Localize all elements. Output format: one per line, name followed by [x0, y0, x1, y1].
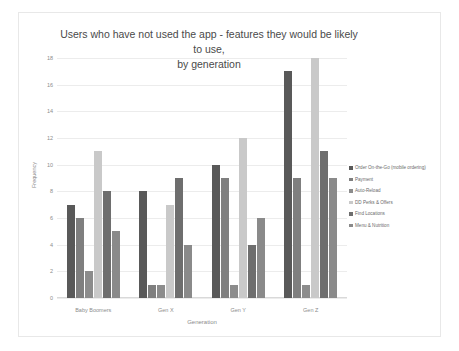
- x-axis-tick: Baby Boomers: [57, 307, 130, 313]
- bar[interactable]: [148, 285, 156, 298]
- y-axis-tick: 4: [50, 242, 53, 248]
- bar[interactable]: [239, 138, 247, 298]
- legend-label: Find Locations: [355, 211, 385, 217]
- y-axis-tick: 18: [47, 55, 53, 61]
- bar[interactable]: [166, 205, 174, 298]
- legend-swatch-icon: [349, 224, 353, 228]
- bar[interactable]: [329, 178, 337, 298]
- plot-wrapper: Frequency 181614121086420 Baby BoomersGe…: [19, 13, 442, 338]
- bar[interactable]: [103, 191, 111, 298]
- legend-swatch-icon: [349, 189, 353, 193]
- legend-item[interactable]: Order On-the-Go (mobile ordering): [349, 165, 441, 171]
- legend-item[interactable]: DD Perks & Offers: [349, 200, 441, 206]
- y-axis-tick: 0: [50, 295, 53, 301]
- bar[interactable]: [184, 245, 192, 298]
- bar[interactable]: [76, 218, 84, 298]
- x-axis-tick: Gen Z: [275, 307, 348, 313]
- gridline: 0: [57, 298, 347, 299]
- bar[interactable]: [311, 58, 319, 298]
- bars: [202, 58, 275, 298]
- y-axis-label: Frequency: [31, 162, 37, 188]
- legend-label: DD Perks & Offers: [355, 200, 393, 206]
- y-axis-tick: 6: [50, 215, 53, 221]
- y-axis-tick: 2: [50, 268, 53, 274]
- bar[interactable]: [139, 191, 147, 298]
- bar[interactable]: [293, 178, 301, 298]
- bar[interactable]: [67, 205, 75, 298]
- bar[interactable]: [212, 165, 220, 298]
- legend-swatch-icon: [349, 166, 353, 170]
- bar-group: Gen Z: [275, 58, 348, 298]
- y-axis-tick: 10: [47, 162, 53, 168]
- bar[interactable]: [302, 285, 310, 298]
- y-axis-tick: 8: [50, 188, 53, 194]
- x-axis-label: Generation: [57, 319, 347, 325]
- bar[interactable]: [157, 285, 165, 298]
- legend-swatch-icon: [349, 212, 353, 216]
- chart-legend: Order On-the-Go (mobile ordering)Payment…: [349, 165, 441, 234]
- bar[interactable]: [221, 178, 229, 298]
- bar-groups: Baby BoomersGen XGen YGen Z: [57, 58, 347, 298]
- legend-item[interactable]: Payment: [349, 177, 441, 183]
- legend-item[interactable]: Auto-Reload: [349, 188, 441, 194]
- bars: [130, 58, 203, 298]
- bar[interactable]: [248, 245, 256, 298]
- bars: [275, 58, 348, 298]
- x-axis-tick: Gen X: [130, 307, 203, 313]
- bar-group: Gen X: [130, 58, 203, 298]
- legend-label: Payment: [355, 177, 373, 183]
- legend-label: Menu & Nutrition: [355, 223, 389, 229]
- bar[interactable]: [257, 218, 265, 298]
- bar[interactable]: [284, 71, 292, 298]
- bar[interactable]: [230, 285, 238, 298]
- bar[interactable]: [85, 271, 93, 298]
- legend-item[interactable]: Menu & Nutrition: [349, 223, 441, 229]
- bar[interactable]: [175, 178, 183, 298]
- plot-area: 181614121086420 Baby BoomersGen XGen YGe…: [57, 58, 347, 298]
- bar-group: Gen Y: [202, 58, 275, 298]
- legend-label: Auto-Reload: [355, 188, 381, 194]
- bar[interactable]: [320, 151, 328, 298]
- bar-group: Baby Boomers: [57, 58, 130, 298]
- bars: [57, 58, 130, 298]
- chart-container: Users who have not used the app - featur…: [18, 12, 441, 337]
- legend-label: Order On-the-Go (mobile ordering): [355, 165, 426, 171]
- y-axis-tick: 16: [47, 82, 53, 88]
- y-axis-tick: 14: [47, 108, 53, 114]
- legend-swatch-icon: [349, 178, 353, 182]
- y-axis-tick: 12: [47, 135, 53, 141]
- bar[interactable]: [112, 231, 120, 298]
- legend-swatch-icon: [349, 201, 353, 205]
- legend-item[interactable]: Find Locations: [349, 211, 441, 217]
- x-axis-tick: Gen Y: [202, 307, 275, 313]
- bar[interactable]: [94, 151, 102, 298]
